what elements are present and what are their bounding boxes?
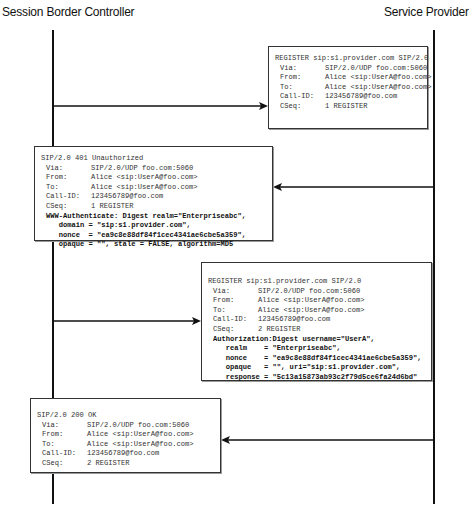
header-value: Alice <sip:UserA@foo.com> <box>91 173 197 181</box>
auth-param-line: opaque = "", uri="sip:s1.provider.com", <box>208 363 425 373</box>
header-name: Call-ID: <box>280 92 325 102</box>
header-value: Alice <sip:UserA@foo.com> <box>258 296 364 304</box>
arrow-register-2 <box>53 317 201 325</box>
header-value: Alice <sip:UserA@foo.com> <box>258 306 364 314</box>
header-name: To: <box>46 183 91 193</box>
auth-param-line: nonce = "ea9c8e88df84f1cec4341ae6cbe5a35… <box>41 231 266 241</box>
header-value: Alice <sip:UserA@foo.com> <box>87 440 193 448</box>
header-name: CSeq: <box>213 325 258 335</box>
header-name: Via: <box>42 421 87 431</box>
auth-param-line: domain = "sip:s1.provider.com", <box>41 221 266 231</box>
header-value: 1 REGISTER <box>325 102 368 110</box>
header-name: To: <box>213 306 258 316</box>
header-value: SIP/2.0/UDP foo.com:5060 <box>258 287 360 295</box>
auth-param-line: realm = "Enterpriseabc", <box>208 344 425 354</box>
message-box-register-1: REGISTER sip:s1.provider.com SIP/2.0 Via… <box>268 46 428 129</box>
header-name: Via: <box>213 287 258 297</box>
start-line: SIP/2.0 401 Unauthorized <box>41 154 266 164</box>
header-value: 123456789@foo.com <box>91 192 163 200</box>
start-line: SIP/2.0 200 OK <box>37 411 214 421</box>
message-box-200-ok: SIP/2.0 200 OK Via:SIP/2.0/UDP foo.com:5… <box>30 398 221 473</box>
header-value: 1 REGISTER <box>91 202 134 210</box>
auth-param-line: response = "5c13a15873ab93c2f79d5ce6fa24… <box>208 373 425 383</box>
message-box-register-2: REGISTER sip:s1.provider.com SIP/2.0 Via… <box>201 262 432 381</box>
header-value: Alice <sip:UserA@foo.com> <box>325 83 431 91</box>
header-name: From: <box>46 173 91 183</box>
header-value: 2 REGISTER <box>87 459 130 467</box>
header-value: Alice <sip:UserA@foo.com> <box>87 430 193 438</box>
message-box-401-unauthorized: SIP/2.0 401 Unauthorized Via:SIP/2.0/UDP… <box>34 146 273 241</box>
auth-param-line: opaque = "", stale = FALSE, algorithm=MD… <box>41 240 266 250</box>
header-value: 123456789@foo.com <box>87 449 159 457</box>
header-name: Call-ID: <box>213 315 258 325</box>
arrow-200-ok <box>221 436 434 444</box>
header-value: Alice <sip:UserA@foo.com> <box>91 183 197 191</box>
header-name: To: <box>280 83 325 93</box>
header-name: Call-ID: <box>46 192 91 202</box>
header-name: From: <box>213 296 258 306</box>
header-name: To: <box>42 440 87 450</box>
www-authenticate-line: WWW-Authenticate: Digest realm="Enterpri… <box>41 212 266 222</box>
header-name: Via: <box>280 64 325 74</box>
header-value: SIP/2.0/UDP foo.com:5060 <box>87 421 189 429</box>
header-name: CSeq: <box>42 459 87 469</box>
header-name: From: <box>280 73 325 83</box>
header-name: Call-ID: <box>42 449 87 459</box>
header-value: 2 REGISTER <box>258 325 301 333</box>
header-value: SIP/2.0/UDP foo.com:5060 <box>325 64 427 72</box>
header-name: CSeq: <box>280 102 325 112</box>
header-name: From: <box>42 430 87 440</box>
header-value: 123456789@foo.com <box>325 92 397 100</box>
header-name: Via: <box>46 164 91 174</box>
auth-param-line: nonce = "ea9c8e88df84f1cec4341ae6cbe5a35… <box>208 354 425 364</box>
start-line: REGISTER sip:s1.provider.com SIP/2.0 <box>275 54 421 64</box>
header-value: 123456789@foo.com <box>258 315 330 323</box>
start-line: REGISTER sip:s1.provider.com SIP/2.0 <box>208 277 425 287</box>
header-name: CSeq: <box>46 202 91 212</box>
header-value: Alice <sip:UserA@foo.com> <box>325 73 431 81</box>
arrow-register-1 <box>53 102 268 110</box>
header-value: SIP/2.0/UDP foo.com:5060 <box>91 164 193 172</box>
authorization-line: Authorization:Digest username="UserA", <box>208 335 425 345</box>
arrow-401-unauthorized <box>273 183 434 191</box>
